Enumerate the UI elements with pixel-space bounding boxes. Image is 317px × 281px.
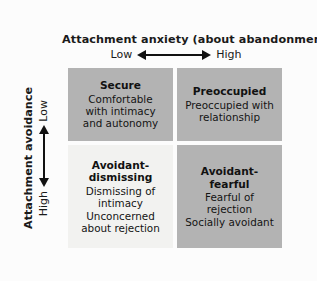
quadrant-preoccupied-description: Preoccupied with relationship <box>185 99 274 124</box>
arrow-shaft <box>43 132 45 180</box>
quadrant-avoidant-dismissing-description: Dismissing of intimacy Unconcerned about… <box>81 185 160 234</box>
y-axis-low-label: Low <box>37 100 50 122</box>
horizontal-double-arrow-icon <box>137 49 211 60</box>
arrow-head-down-icon <box>39 178 49 187</box>
x-axis-low-label: Low <box>111 48 133 61</box>
quadrant-secure-title: Secure <box>100 79 141 92</box>
quadrant-preoccupied: Preoccupied Preoccupied with relationshi… <box>177 68 282 141</box>
vertical-double-arrow-icon <box>38 125 49 187</box>
quadrant-avoidant-fearful-description: Fearful of rejection Socially avoidant <box>182 191 277 228</box>
quadrant-avoidant-fearful-title: Avoidant- fearful <box>201 165 258 190</box>
y-axis-high-label: High <box>37 191 50 216</box>
quadrant-preoccupied-title: Preoccupied <box>193 85 267 98</box>
y-axis-title: Attachment avoidance <box>22 68 35 248</box>
quadrant-secure: Secure Comfortable with intimacy and aut… <box>68 68 173 141</box>
quadrant-avoidant-dismissing: Avoidant- dismissing Dismissing of intim… <box>68 145 173 248</box>
y-axis-scale: Low High <box>37 68 50 248</box>
x-axis-title: Attachment anxiety (about abandonment) <box>62 33 290 46</box>
quadrant-avoidant-fearful: Avoidant- fearful Fearful of rejection S… <box>177 145 282 248</box>
quadrant-secure-description: Comfortable with intimacy and autonomy <box>83 93 158 130</box>
quadrant-matrix: Secure Comfortable with intimacy and aut… <box>68 68 282 248</box>
x-axis-scale: Low High <box>62 47 290 62</box>
arrow-shaft <box>144 54 204 56</box>
arrow-head-right-icon <box>202 50 211 60</box>
quadrant-avoidant-dismissing-title: Avoidant- dismissing <box>89 159 153 184</box>
y-axis: Attachment avoidance Low High <box>22 68 68 248</box>
x-axis: Attachment anxiety (about abandonment) L… <box>62 33 290 62</box>
x-axis-high-label: High <box>216 48 241 61</box>
attachment-style-matrix-figure: Attachment anxiety (about abandonment) L… <box>0 0 317 281</box>
